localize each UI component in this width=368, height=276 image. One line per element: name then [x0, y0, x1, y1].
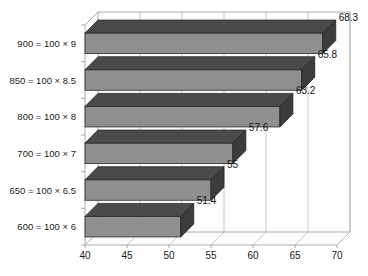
bar-top-face — [85, 167, 224, 180]
bar-value-label: 55 — [227, 159, 239, 170]
y-tick-marks-group — [81, 25, 85, 245]
x-tick-label: 55 — [205, 250, 217, 261]
category-label: 900 = 100 × 9 — [17, 38, 76, 49]
bar-value-label: 63.2 — [296, 85, 316, 96]
x-tick-label: 65 — [289, 250, 301, 261]
bar-front-face — [85, 216, 181, 237]
category-label: 650 = 100 × 6.5 — [9, 185, 76, 196]
x-tick-label: 60 — [247, 250, 259, 261]
bar-value-label: 65.8 — [318, 49, 338, 60]
x-tick-label: 70 — [331, 250, 343, 261]
bar-value-label: 51.4 — [197, 195, 217, 206]
bar-front-face — [85, 33, 323, 54]
x-tick-labels-group: 40455055606570 — [79, 245, 343, 261]
x-tick-label: 45 — [121, 250, 133, 261]
x-tick-label: 50 — [163, 250, 175, 261]
category-label: 700 = 100 × 7 — [17, 148, 76, 159]
bar-value-label: 68.3 — [339, 12, 359, 23]
bar-top-face — [85, 93, 293, 106]
bar-front-face — [85, 143, 233, 164]
bar-front-face — [85, 70, 302, 91]
bar-top-face — [85, 203, 194, 216]
chart-canvas: 68.365.863.257.65551.4 900 = 100 × 9850 … — [0, 0, 368, 276]
bar-front-face — [85, 180, 211, 201]
bar-value-label: 57.6 — [249, 122, 269, 133]
category-label: 800 = 100 × 8 — [17, 111, 76, 122]
category-label: 850 = 100 × 8.5 — [9, 75, 76, 86]
bar-top-face — [85, 57, 315, 70]
bar-chart: 68.365.863.257.65551.4 900 = 100 × 9850 … — [0, 0, 368, 276]
bar-top-face — [85, 130, 246, 143]
x-tick-label: 40 — [79, 250, 91, 261]
bar-top-face — [85, 20, 336, 33]
category-label: 600 = 100 × 6 — [17, 221, 76, 232]
category-labels-group: 900 = 100 × 9850 = 100 × 8.5800 = 100 × … — [9, 38, 76, 232]
